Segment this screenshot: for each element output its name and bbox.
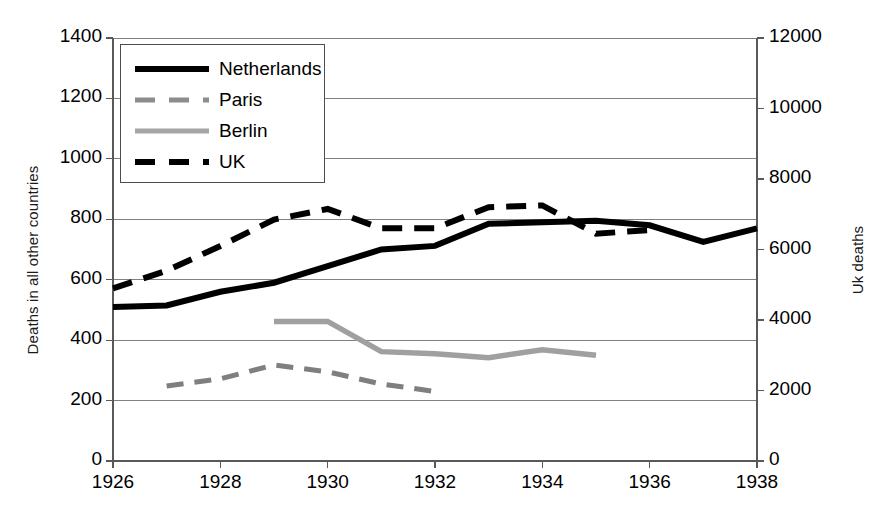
legend-label: Paris: [219, 89, 262, 111]
legend-label: Berlin: [219, 120, 268, 142]
legend-swatch-netherlands-icon: [135, 60, 209, 78]
legend-swatch-berlin-icon: [135, 122, 209, 140]
legend-item-netherlands[interactable]: Netherlands: [121, 54, 324, 84]
series-line-berlin: [274, 321, 596, 357]
legend-label: Netherlands: [219, 58, 321, 80]
legend-swatch-paris-icon: [135, 91, 209, 109]
line-chart: Deaths in all other countries Uk deaths …: [0, 0, 875, 519]
legend: NetherlandsParisBerlinUK: [120, 44, 325, 183]
series-line-paris: [167, 365, 435, 392]
legend-label: UK: [219, 151, 245, 173]
series-line-netherlands: [113, 221, 757, 307]
legend-item-uk[interactable]: UK: [121, 147, 324, 177]
legend-swatch-uk-icon: [135, 153, 209, 171]
legend-item-paris[interactable]: Paris: [121, 85, 324, 115]
data-series: [113, 205, 757, 391]
legend-item-berlin[interactable]: Berlin: [121, 116, 324, 146]
